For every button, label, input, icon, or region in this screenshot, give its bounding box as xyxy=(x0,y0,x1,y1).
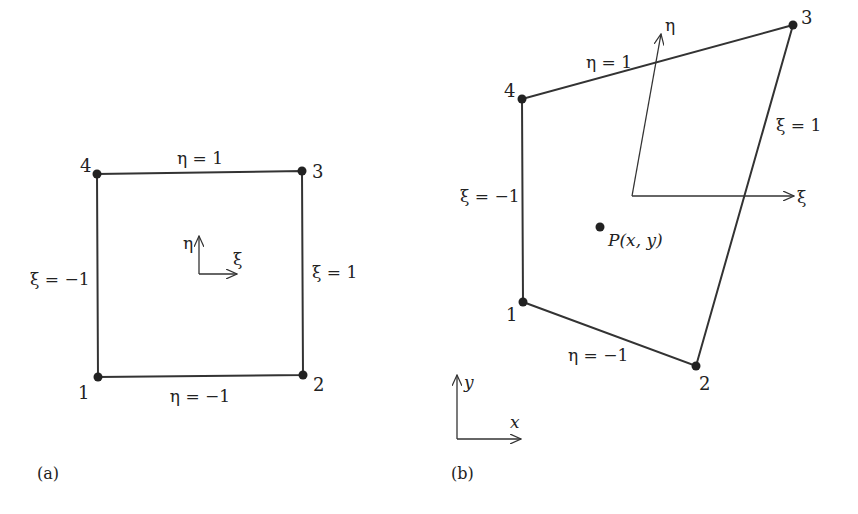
caption-a: (a) xyxy=(37,464,59,483)
xi-axis-label-b: ξ xyxy=(797,187,806,207)
edge-label-right-a: ξ = 1 xyxy=(312,262,357,282)
x-axis-label: x xyxy=(510,412,520,432)
caption-b: (b) xyxy=(451,464,474,483)
edge-label-top-b: η = 1 xyxy=(586,52,632,72)
diagram-svg: 1 2 3 4 η = 1 η = −1 ξ = −1 ξ = 1 η ξ (a… xyxy=(0,0,858,514)
node-2-b xyxy=(692,362,701,371)
node-1-b xyxy=(519,298,528,307)
panel-a: 1 2 3 4 η = 1 η = −1 ξ = −1 ξ = 1 η ξ (a… xyxy=(30,148,357,483)
eta-axis-label-b: η xyxy=(665,15,675,35)
node-label-1-b: 1 xyxy=(506,304,517,325)
node-3-b xyxy=(789,21,798,30)
panel-b: 1 2 3 4 η = 1 η = −1 ξ = −1 ξ = 1 η ξ P(… xyxy=(451,7,821,483)
node-4-b xyxy=(518,95,527,104)
node-label-2-a: 2 xyxy=(313,374,324,395)
node-label-2-b: 2 xyxy=(699,373,710,394)
node-1-a xyxy=(94,373,103,382)
node-label-4-a: 4 xyxy=(80,155,91,176)
node-label-3-b: 3 xyxy=(801,7,812,28)
isoparametric-element-figure: 1 2 3 4 η = 1 η = −1 ξ = −1 ξ = 1 η ξ (a… xyxy=(0,0,858,514)
y-axis-label: y xyxy=(463,372,474,392)
point-p xyxy=(596,223,605,232)
node-3-a xyxy=(298,167,307,176)
node-label-3-a: 3 xyxy=(312,161,323,182)
edge-label-bottom-b: η = −1 xyxy=(568,345,628,365)
xi-axis-label-a: ξ xyxy=(233,249,242,269)
node-4-a xyxy=(93,170,102,179)
edge-label-left-b: ξ = −1 xyxy=(460,186,519,206)
eta-axis-b xyxy=(632,34,661,196)
edge-label-bottom-a: η = −1 xyxy=(170,386,230,406)
edge-label-right-b: ξ = 1 xyxy=(776,115,821,135)
node-2-a xyxy=(299,371,308,380)
edge-label-left-a: ξ = −1 xyxy=(30,269,89,289)
edge-label-top-a: η = 1 xyxy=(177,148,223,168)
node-label-4-b: 4 xyxy=(504,80,515,101)
eta-axis-label-a: η xyxy=(183,233,193,253)
node-label-1-a: 1 xyxy=(78,382,89,403)
point-p-label: P(x, y) xyxy=(607,230,663,250)
